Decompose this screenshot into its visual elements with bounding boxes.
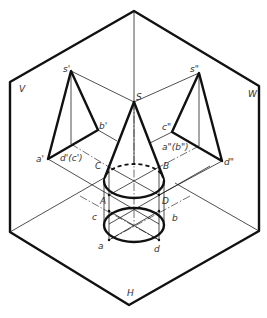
label-A: A <box>99 196 106 206</box>
point-c <box>108 210 110 212</box>
label-a: a <box>98 241 104 251</box>
label-d-dprime: d" <box>224 157 234 167</box>
v-proj-b <box>98 130 117 141</box>
label-c-dprime: c" <box>162 122 171 132</box>
axis-h-right <box>175 183 259 231</box>
axis-h-left <box>10 178 104 232</box>
plane-label-h: H <box>127 288 134 298</box>
point-a <box>108 239 110 241</box>
point-B <box>158 166 160 168</box>
plane-label-w: W <box>248 89 258 99</box>
label-ab-dprime: a"(b") <box>162 142 189 152</box>
point-d <box>158 239 160 241</box>
label-S: S <box>136 92 142 102</box>
label-b-prime: b' <box>99 121 107 131</box>
label-D: D <box>162 196 169 206</box>
v-proj-s <box>71 71 134 102</box>
label-d: d <box>154 244 160 254</box>
label-s-dprime: s" <box>190 64 199 74</box>
point-b <box>158 210 160 212</box>
point-A <box>108 194 110 196</box>
label-c: c <box>92 212 97 222</box>
label-s-prime: s' <box>63 64 70 74</box>
label-B: B <box>163 161 169 171</box>
label-C: C <box>95 161 102 171</box>
projection-diagram: V W H s' b' a' d'(c') s" c" a"(b") d" S … <box>0 0 267 318</box>
point-C <box>108 166 110 168</box>
w-proj-s <box>134 73 199 102</box>
point-D <box>158 194 160 196</box>
v-projection-triangle <box>48 71 98 159</box>
label-a-prime: a' <box>36 154 44 164</box>
label-dc-prime: d'(c') <box>60 153 83 163</box>
label-b: b <box>172 213 178 223</box>
plane-label-v: V <box>19 84 26 94</box>
v-proj-a <box>48 159 60 166</box>
